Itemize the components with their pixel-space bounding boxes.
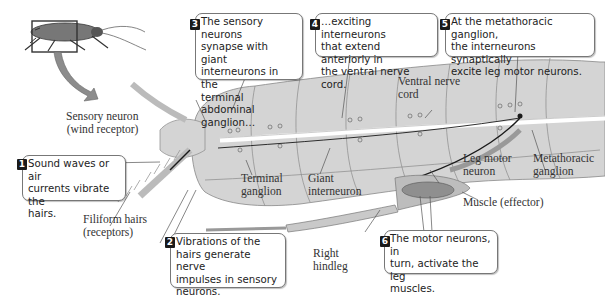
label-terminal-ganglion-line-1: Terminal xyxy=(241,172,283,185)
step-4-line-1: …exciting interneurons xyxy=(321,16,432,41)
step-4-badge: 4 xyxy=(310,19,320,30)
label-leg-motor-neuron-line-1: Leg motor xyxy=(463,152,512,165)
label-metathoracic-ganglion-line-1: Metathoracic xyxy=(533,152,594,165)
step-6-line-1: The motor neurons, in xyxy=(390,233,492,258)
label-ventral-nerve-cord-line-2: cord xyxy=(398,88,460,101)
label-giant-interneuron-line-2: interneuron xyxy=(308,185,361,198)
label-right-hindleg: Right hindleg xyxy=(313,247,348,273)
step-5-callout: At the metathoracic ganglion, the intern… xyxy=(445,13,595,57)
step-1-line-1: Sound waves or air xyxy=(28,158,120,183)
step-6-badge: 6 xyxy=(380,236,390,247)
label-metathoracic-ganglion: Metathoracic ganglion xyxy=(533,152,594,178)
step-3-line-4: terminal abdominal xyxy=(201,92,297,117)
label-muscle-effector: Muscle (effector) xyxy=(463,196,544,209)
step-3-badge: 3 xyxy=(190,19,200,30)
step-6-callout: The motor neurons, in turn, activate the… xyxy=(384,230,498,274)
label-right-hindleg-line-1: Right xyxy=(313,247,348,260)
label-ventral-nerve-cord-line-1: Ventral nerve xyxy=(398,75,460,88)
step-1-callout: Sound waves or air currents vibrate the … xyxy=(22,155,126,201)
label-right-hindleg-line-2: hindleg xyxy=(313,260,348,273)
step-3-line-1: The sensory neurons xyxy=(201,16,297,41)
step-2-line-3: impulses in sensory xyxy=(176,274,280,287)
step-6-line-3: muscles. xyxy=(390,283,492,296)
step-6-line-2: turn, activate the leg xyxy=(390,258,492,283)
label-filiform-hairs-line-2: (receptors) xyxy=(83,226,147,239)
label-sensory-neuron: Sensory neuron (wind receptor) xyxy=(66,110,138,136)
step-3-callout: The sensory neurons synapse with giant i… xyxy=(195,13,303,80)
step-5-line-2: the interneurons synaptically xyxy=(451,41,589,66)
step-1-badge: 1 xyxy=(17,159,27,170)
label-ventral-nerve-cord: Ventral nerve cord xyxy=(398,75,460,101)
label-terminal-ganglion-line-2: ganglion xyxy=(241,185,283,198)
label-giant-interneuron-line-1: Giant xyxy=(308,172,361,185)
step-3-line-2: synapse with giant xyxy=(201,41,297,66)
step-3-line-3: interneurons in the xyxy=(201,66,297,91)
step-2-line-1: Vibrations of the xyxy=(176,236,280,249)
step-4-callout: …exciting interneurons that extend anter… xyxy=(315,13,438,57)
step-5-badge: 5 xyxy=(440,19,450,30)
step-2-callout: Vibrations of the hairs generate nerve i… xyxy=(170,233,286,288)
label-giant-interneuron: Giant interneuron xyxy=(308,172,361,198)
step-5-line-1: At the metathoracic ganglion, xyxy=(451,16,589,41)
step-2-line-2: hairs generate nerve xyxy=(176,249,280,274)
label-filiform-hairs: Filiform hairs (receptors) xyxy=(83,213,147,239)
step-4-line-2: that extend anteriorly in xyxy=(321,41,432,66)
label-leg-motor-neuron-line-2: neuron xyxy=(463,165,512,178)
label-terminal-ganglion: Terminal ganglion xyxy=(241,172,283,198)
leg-muscle xyxy=(402,182,454,198)
step-1-line-2: currents vibrate the xyxy=(28,183,120,208)
label-filiform-hairs-line-1: Filiform hairs xyxy=(83,213,147,226)
step-2-line-4: neurons. xyxy=(176,286,280,299)
step-3-line-5: ganglion… xyxy=(201,117,297,130)
zoom-arrow-icon xyxy=(54,52,98,101)
label-leg-motor-neuron: Leg motor neuron xyxy=(463,152,512,178)
label-muscle-line-1: Muscle (effector) xyxy=(463,196,544,209)
step-2-badge: 2 xyxy=(165,237,175,248)
step-5-line-3: excite leg motor neurons. xyxy=(451,66,589,79)
label-metathoracic-ganglion-line-2: ganglion xyxy=(533,165,594,178)
label-sensory-neuron-line-1: Sensory neuron xyxy=(66,110,138,123)
cockroach-inset-icon xyxy=(25,21,146,52)
label-sensory-neuron-line-2: (wind receptor) xyxy=(66,123,138,136)
